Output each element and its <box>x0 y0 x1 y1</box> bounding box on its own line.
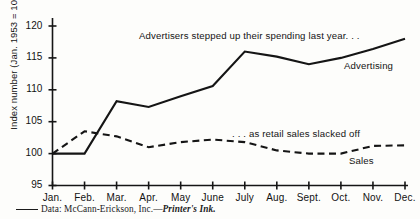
source-note: Data: McCann-Erickson, Inc.—Printer's In… <box>16 204 216 214</box>
source-prefix: Data: McCann-Erickson, Inc.— <box>41 204 163 214</box>
series-label-sales: Sales <box>349 155 374 166</box>
x-tick-label: Dec. <box>383 192 420 203</box>
annotation-advertising: Advertisers stepped up their spending la… <box>139 30 360 41</box>
source-publication: Printer's Ink. <box>163 204 216 214</box>
y-tick-label: 105 <box>17 115 43 126</box>
source-rule <box>16 209 38 210</box>
y-tick-label: 95 <box>17 179 43 190</box>
y-tick-label: 100 <box>17 147 43 158</box>
annotation-sales: . . . as retail sales slacked off <box>232 128 360 139</box>
y-tick-label: 115 <box>17 51 43 62</box>
y-tick-label: 110 <box>17 83 43 94</box>
y-tick-label: 120 <box>17 20 43 31</box>
series-label-advertising: Advertising <box>344 60 393 71</box>
